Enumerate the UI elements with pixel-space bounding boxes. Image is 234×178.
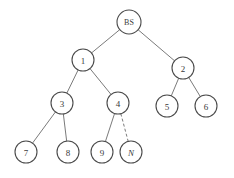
node-label-6: 6	[204, 102, 209, 112]
edge-2-to-5	[171, 78, 178, 96]
node-label-3: 3	[60, 99, 65, 109]
tree-node-9[interactable]: 9	[91, 141, 113, 163]
edge-3-to-8	[63, 114, 66, 141]
edge-1-to-3	[67, 70, 78, 93]
tree-node-8[interactable]: 8	[57, 141, 79, 163]
tree-node-2[interactable]: 2	[172, 57, 194, 79]
node-label-7: 7	[24, 148, 29, 158]
tree-node-1[interactable]: 1	[72, 49, 94, 71]
edge-3-to-7	[33, 112, 56, 143]
edge-BS-to-2	[138, 30, 175, 61]
node-label-8: 8	[66, 148, 71, 158]
node-label-2: 2	[181, 64, 186, 74]
tree-node-3[interactable]: 3	[51, 92, 73, 114]
edge-BS-to-1	[91, 30, 119, 53]
tree-node-4[interactable]: 4	[107, 92, 129, 114]
edges-layer	[33, 30, 201, 144]
tree-diagram: BS123456789N	[0, 0, 234, 178]
node-label-9: 9	[100, 148, 105, 158]
tree-node-7[interactable]: 7	[15, 141, 37, 163]
edge-1-to-4	[90, 69, 111, 95]
edge-4-to-9	[105, 113, 114, 141]
node-label-4: 4	[116, 99, 121, 109]
edge-2-to-6	[189, 77, 201, 96]
tree-node-6[interactable]: 6	[195, 95, 217, 117]
node-label-1: 1	[81, 56, 86, 66]
node-label-5: 5	[165, 102, 170, 112]
node-label-n: N	[127, 148, 135, 158]
tree-node-bs[interactable]: BS	[117, 10, 141, 34]
tree-node-5[interactable]: 5	[156, 95, 178, 117]
tree-node-n[interactable]: N	[120, 141, 142, 163]
tree-diagram-canvas: BS123456789N	[0, 0, 234, 178]
edge-4-to-N	[121, 114, 128, 142]
node-label-bs: BS	[124, 18, 134, 27]
